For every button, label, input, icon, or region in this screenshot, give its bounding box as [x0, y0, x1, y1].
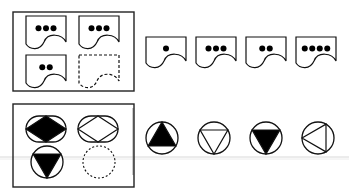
option-1	[146, 122, 178, 154]
grid-cell	[26, 116, 66, 142]
page-outline	[79, 16, 119, 49]
dot	[267, 45, 273, 51]
page-outline	[196, 37, 236, 68]
dot	[43, 25, 49, 31]
grid-cell	[79, 55, 119, 88]
dot	[39, 64, 45, 70]
page-outline	[26, 16, 66, 49]
page-outline	[146, 37, 186, 68]
puzzle-canvas	[0, 0, 349, 191]
dot	[36, 25, 42, 31]
dot	[47, 64, 53, 70]
dot	[104, 25, 110, 31]
dot	[213, 45, 219, 51]
option-4	[302, 122, 334, 154]
grid-cell	[83, 146, 115, 178]
dot	[324, 45, 330, 51]
dot	[317, 45, 323, 51]
grid-cell	[31, 146, 63, 178]
grid-cell	[79, 16, 119, 49]
option-2	[198, 122, 230, 154]
missing-slot	[83, 146, 115, 178]
dot	[163, 45, 169, 51]
dot	[89, 25, 95, 31]
dot	[259, 45, 265, 51]
option-4	[296, 37, 336, 68]
dot	[206, 45, 212, 51]
page-outline	[246, 37, 286, 68]
grid-cell	[78, 116, 118, 142]
option-2	[196, 37, 236, 68]
option-3	[246, 37, 286, 68]
dot	[221, 45, 227, 51]
option-1	[146, 37, 186, 68]
puzzle-2-frame	[13, 104, 134, 187]
missing-slot	[79, 55, 119, 88]
page-outline	[296, 37, 336, 68]
dot	[302, 45, 308, 51]
grid-cell	[26, 16, 66, 49]
dot	[96, 25, 102, 31]
dot	[51, 25, 57, 31]
grid-cell	[26, 55, 66, 88]
option-3	[250, 122, 282, 154]
page-outline	[26, 55, 66, 88]
dot	[309, 45, 315, 51]
